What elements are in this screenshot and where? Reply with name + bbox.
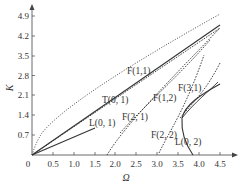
- x-ticks: [53, 152, 220, 155]
- y-tick-label: 1.4: [18, 110, 30, 120]
- y-tick-label: 3.5: [18, 51, 30, 61]
- y-tick-label: 2.1: [18, 90, 29, 100]
- x-tick-label: 1.5: [89, 159, 101, 169]
- y-axis-label: K: [4, 83, 15, 92]
- label-F21: F(2, 1): [122, 112, 148, 123]
- label-L01: L(0, 1): [89, 118, 115, 129]
- label-T01: T(0, 1): [102, 95, 128, 106]
- origin-label: 0: [26, 159, 31, 169]
- label-F31: F(3,1): [178, 83, 202, 94]
- x-axis-arrow-icon: [232, 153, 238, 158]
- x-tick-label: 4.0: [193, 159, 205, 169]
- y-tick-label: 4.2: [18, 31, 29, 41]
- x-axis-label: Ω: [122, 172, 129, 183]
- label-F22: F(2, 2): [151, 130, 177, 141]
- y-tick-label: 2.8: [18, 71, 30, 81]
- x-tick-label: 3.0: [151, 159, 163, 169]
- dispersion-chart: 0.7 1.4 2.1 2.8 3.5 4.2 4.9 0 0.5 1.0 1.…: [0, 0, 242, 187]
- y-axis-arrow-icon: [30, 4, 35, 10]
- x-tick-label: 2.0: [109, 159, 121, 169]
- y-ticks: [32, 16, 35, 135]
- y-tick-label: 4.9: [18, 11, 30, 21]
- x-tick-label: 3.5: [172, 159, 184, 169]
- label-L02: L(0, 2): [175, 137, 201, 148]
- x-tick-label: 1.0: [68, 159, 80, 169]
- x-tick-label: 4.5: [214, 159, 226, 169]
- x-tick-label: 0.5: [47, 159, 59, 169]
- label-F11: F(1,1): [127, 66, 151, 77]
- curve-L01: [32, 128, 95, 155]
- label-F12: F(1,2): [153, 93, 177, 104]
- x-tick-label: 2.5: [130, 159, 142, 169]
- y-tick-label: 0.7: [18, 130, 30, 140]
